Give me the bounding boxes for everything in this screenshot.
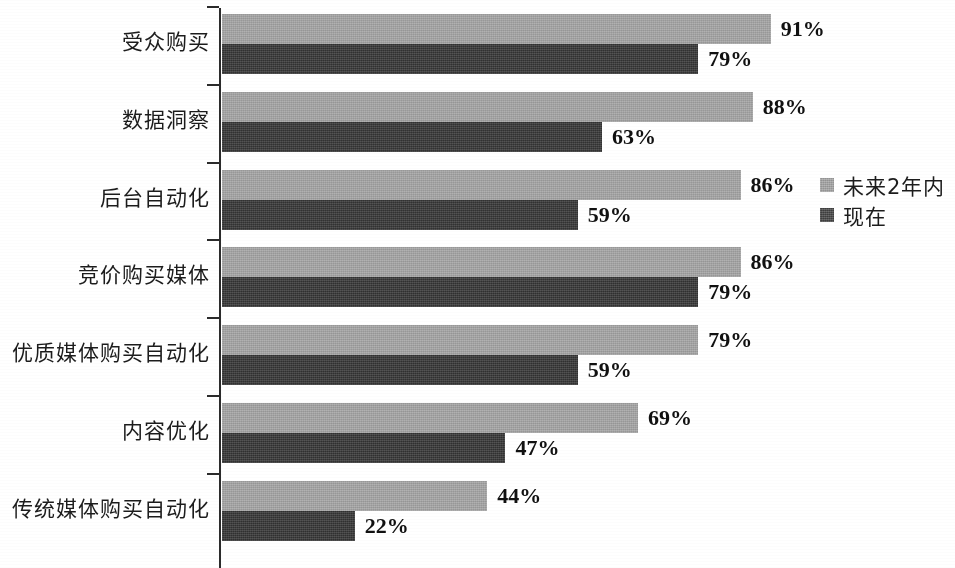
- axis-tick: [207, 473, 219, 475]
- bar-value-label: 59%: [588, 202, 632, 228]
- bar-group: 后台自动化86%59%: [0, 170, 955, 230]
- bar-now[interactable]: [222, 511, 355, 541]
- bar-future[interactable]: [222, 170, 741, 200]
- bar-row: 59%: [222, 355, 922, 385]
- bar-row: 22%: [222, 511, 922, 541]
- bar-value-label: 88%: [763, 94, 807, 120]
- axis-tick: [207, 6, 219, 8]
- category-label: 竞价购买媒体: [0, 264, 210, 287]
- bar-now[interactable]: [222, 355, 578, 385]
- bar-value-label: 79%: [708, 279, 752, 305]
- bar-chart: 受众购买91%79%数据洞察88%63%后台自动化86%59%竞价购买媒体86%…: [0, 0, 955, 568]
- bar-now[interactable]: [222, 200, 578, 230]
- category-label: 数据洞察: [0, 109, 210, 132]
- bar-value-label: 79%: [708, 327, 752, 353]
- bar-value-label: 86%: [751, 249, 795, 275]
- bar-group: 优质媒体购买自动化79%59%: [0, 325, 955, 385]
- bar-now[interactable]: [222, 277, 698, 307]
- bar-now[interactable]: [222, 122, 602, 152]
- bar-future[interactable]: [222, 92, 753, 122]
- bar-row: 44%: [222, 481, 922, 511]
- bar-row: 86%: [222, 247, 922, 277]
- plot-area: 受众购买91%79%数据洞察88%63%后台自动化86%59%竞价购买媒体86%…: [0, 0, 955, 568]
- bar-row: 79%: [222, 277, 922, 307]
- legend-label-now: 现在: [843, 200, 887, 230]
- bar-group: 数据洞察88%63%: [0, 92, 955, 152]
- bar-group: 内容优化69%47%: [0, 403, 955, 463]
- axis-tick: [207, 239, 219, 241]
- bar-future[interactable]: [222, 403, 638, 433]
- bar-group: 受众购买91%79%: [0, 14, 955, 74]
- bar-row: 86%: [222, 170, 922, 200]
- category-label: 受众购买: [0, 31, 210, 54]
- legend-label-future: 未来2年内: [843, 170, 945, 200]
- category-label: 后台自动化: [0, 187, 210, 210]
- bar-value-label: 79%: [708, 46, 752, 72]
- category-label: 优质媒体购买自动化: [0, 342, 210, 365]
- bar-future[interactable]: [222, 481, 487, 511]
- bar-value-label: 91%: [781, 16, 825, 42]
- chart-legend: 未来2年内 现在: [820, 170, 955, 230]
- legend-swatch-now-icon: [820, 208, 834, 222]
- bar-row: 47%: [222, 433, 922, 463]
- category-label: 传统媒体购买自动化: [0, 498, 210, 521]
- bar-value-label: 63%: [612, 124, 656, 150]
- bar-value-label: 59%: [588, 357, 632, 383]
- bar-row: 59%: [222, 200, 922, 230]
- bar-future[interactable]: [222, 247, 741, 277]
- bar-value-label: 22%: [365, 513, 409, 539]
- bar-row: 63%: [222, 122, 922, 152]
- category-label: 内容优化: [0, 420, 210, 443]
- bar-now[interactable]: [222, 433, 505, 463]
- axis-tick: [207, 317, 219, 319]
- axis-tick: [207, 162, 219, 164]
- bar-future[interactable]: [222, 14, 771, 44]
- bar-group: 传统媒体购买自动化44%22%: [0, 481, 955, 541]
- bar-row: 79%: [222, 325, 922, 355]
- bar-value-label: 86%: [751, 172, 795, 198]
- bar-row: 88%: [222, 92, 922, 122]
- bar-group: 竞价购买媒体86%79%: [0, 247, 955, 307]
- bar-row: 79%: [222, 44, 922, 74]
- bar-now[interactable]: [222, 44, 698, 74]
- legend-item-now[interactable]: 现在: [820, 200, 955, 230]
- legend-item-future[interactable]: 未来2年内: [820, 170, 955, 200]
- bar-row: 91%: [222, 14, 922, 44]
- axis-tick: [207, 395, 219, 397]
- bar-value-label: 69%: [648, 405, 692, 431]
- bar-value-label: 44%: [497, 483, 541, 509]
- bar-future[interactable]: [222, 325, 698, 355]
- legend-swatch-future-icon: [820, 178, 834, 192]
- axis-tick: [207, 84, 219, 86]
- bar-row: 69%: [222, 403, 922, 433]
- bar-value-label: 47%: [515, 435, 559, 461]
